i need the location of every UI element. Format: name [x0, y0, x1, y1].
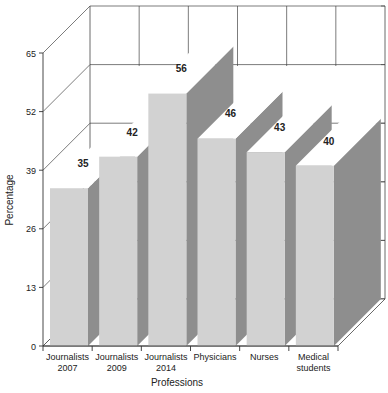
bars — [50, 47, 381, 346]
y-tick-label: 65 — [26, 49, 36, 59]
bar-front-face — [148, 94, 186, 346]
bar-front-face — [247, 152, 285, 346]
data-label: 43 — [274, 122, 286, 133]
y-axis-title: Percentage — [4, 174, 15, 226]
y-tick-label: 26 — [26, 224, 36, 234]
y-tick-label: 0 — [31, 342, 36, 352]
data-label: 40 — [323, 136, 335, 147]
side-gridline — [43, 65, 90, 112]
x-axis-title: Professions — [151, 377, 203, 388]
x-category-label: Journalists — [46, 352, 90, 362]
x-category-label: 2009 — [107, 363, 127, 373]
data-label: 56 — [176, 63, 188, 74]
x-category-label: Journalists — [144, 352, 188, 362]
x-category-label: 2007 — [58, 363, 78, 373]
x-category-label: Nurses — [250, 352, 279, 362]
bar-front-face — [296, 166, 334, 346]
x-category-label: students — [296, 363, 331, 373]
x-category-label: Journalists — [95, 352, 139, 362]
x-category-label: Medical — [298, 352, 329, 362]
y-tick-label: 52 — [26, 107, 36, 117]
bar-front-face — [99, 157, 137, 346]
bar-front-face — [50, 188, 88, 346]
data-label: 35 — [77, 158, 89, 169]
data-label: 42 — [127, 127, 139, 138]
y-tick-label: 39 — [26, 166, 36, 176]
data-label: 46 — [225, 108, 237, 119]
x-category-label: Physicians — [194, 352, 238, 362]
x-category-label: 2014 — [156, 363, 176, 373]
y-tick-label: 13 — [26, 283, 36, 293]
side-gridline — [43, 6, 90, 53]
bar-chart-3d: 35425646434001326395265Journalists2007Jo… — [0, 0, 388, 393]
bar-front-face — [198, 139, 236, 346]
